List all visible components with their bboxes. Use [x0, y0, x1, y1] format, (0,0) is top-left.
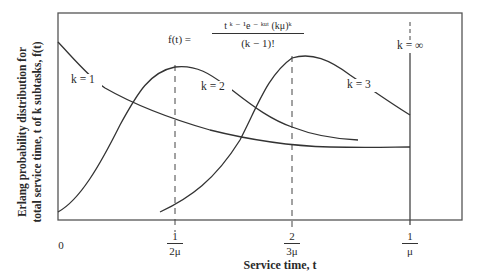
- y-axis-label-line1: Erlang probability distribution for: [15, 22, 30, 242]
- curve-k1: [58, 42, 410, 147]
- formula-numerator: t ᵏ ⁻ ¹e ⁻ ᵏᵘᵗ (kμ)ᵏ: [212, 20, 304, 31]
- y-axis-label-line2: total service time, t of k subtasks, f(t…: [30, 22, 45, 242]
- x-tick-two-thirds-mu-bar: [284, 243, 300, 244]
- x-tick-mu-bar: [402, 243, 418, 244]
- x-tick-half-mu-bar: [167, 243, 183, 244]
- x-tick-0-label: 0: [46, 239, 76, 251]
- label-k2: k = 2: [201, 80, 225, 92]
- x-tick-two-thirds-mu-den: 3μ: [277, 245, 307, 257]
- x-tick-mu: 1 μ: [395, 230, 425, 257]
- x-tick-half-mu-den: 2μ: [160, 245, 190, 257]
- formula-bar: [212, 33, 304, 34]
- x-tick-half-mu: 1 2μ: [160, 230, 190, 257]
- formula-fraction: t ᵏ ⁻ ¹e ⁻ ᵏᵘᵗ (kμ)ᵏ (k − 1)!: [212, 20, 304, 49]
- formula-lhs: f(t) =: [168, 33, 191, 45]
- x-tick-mu-num: 1: [395, 230, 425, 242]
- label-k-infinity: k = ∞: [397, 39, 423, 51]
- x-tick-two-thirds-mu: 2 3μ: [277, 230, 307, 257]
- label-k3: k = 3: [347, 78, 371, 90]
- x-tick-0: 0: [46, 239, 76, 251]
- x-axis-label: Service time, t: [200, 258, 360, 273]
- x-tick-two-thirds-mu-num: 2: [277, 230, 307, 242]
- x-tick-mu-den: μ: [395, 245, 425, 257]
- label-k1: k = 1: [71, 73, 95, 85]
- formula-denominator: (k − 1)!: [212, 37, 304, 49]
- y-axis-label: Erlang probability distribution for tota…: [15, 22, 49, 242]
- x-tick-half-mu-num: 1: [160, 230, 190, 242]
